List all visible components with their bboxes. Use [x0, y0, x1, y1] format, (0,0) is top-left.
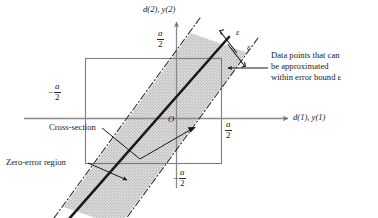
x-neg-tick-denominator: 2: [54, 93, 61, 102]
x-axis-positive-tick-label: a 2: [225, 120, 232, 140]
y-neg-tick-denominator: 2: [179, 179, 186, 188]
y-axis-negative-tick-label: − a 2: [173, 168, 186, 188]
diagram-svg: [0, 0, 378, 218]
x-axis-label: d(1), y(1): [293, 112, 325, 122]
y-neg-tick-numerator: a: [179, 168, 186, 177]
data-points-annotation: Data points that can be approximated wit…: [271, 50, 377, 84]
epsilon-lower-label: ε: [247, 43, 250, 52]
y-pos-tick-numerator: a: [157, 29, 164, 38]
x-neg-tick-numerator: a: [54, 82, 61, 91]
y-axis-positive-tick-label: a 2: [157, 29, 164, 49]
y-pos-tick-denominator: 2: [157, 40, 164, 49]
x-pos-tick-denominator: 2: [225, 131, 232, 140]
x-pos-tick-numerator: a: [225, 120, 232, 129]
zero-error-region-annotation: Zero-error region: [6, 157, 66, 168]
origin-label: O: [168, 114, 174, 124]
y-axis-label: d(2), y(2): [143, 4, 175, 14]
figure-canvas: d(2), y(2) d(1), y(1) O a 2 − a 2 − a 2 …: [0, 0, 378, 218]
cross-section-annotation: Cross-section: [49, 122, 96, 133]
x-axis-negative-tick-label: − a 2: [48, 82, 61, 102]
epsilon-upper-label: ε: [236, 28, 239, 37]
